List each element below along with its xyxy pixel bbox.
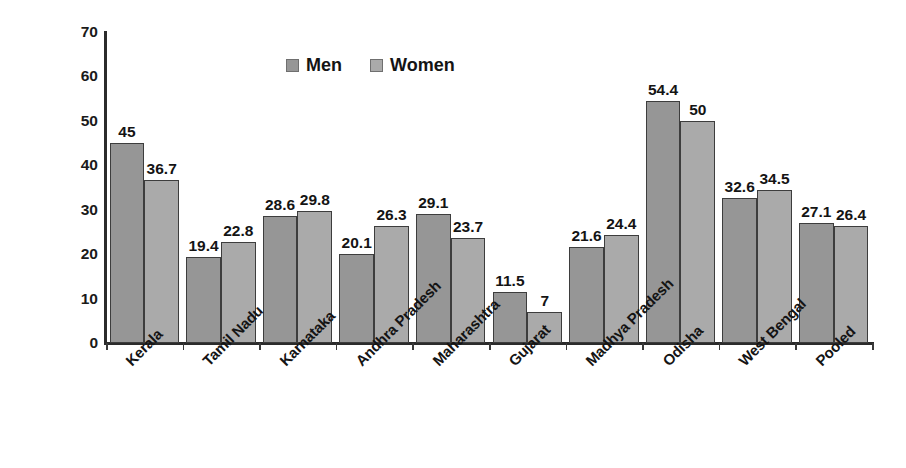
x-axis-tick bbox=[412, 343, 414, 350]
bar-value-label: 27.1 bbox=[801, 203, 831, 221]
bar-men bbox=[339, 254, 374, 343]
bar-group: 20.126.3 bbox=[339, 32, 409, 343]
bar-value-label: 7 bbox=[540, 292, 549, 310]
bar-group: 32.634.5 bbox=[722, 32, 792, 343]
y-axis-tick-label: 50 bbox=[54, 112, 98, 130]
legend-swatch-icon bbox=[370, 59, 383, 72]
bar-men bbox=[110, 143, 145, 343]
bar-group: 19.422.8 bbox=[186, 32, 256, 343]
x-axis-tick bbox=[719, 343, 721, 350]
y-axis-tick-label: 30 bbox=[54, 201, 98, 219]
x-axis-tick bbox=[106, 343, 108, 350]
bar-women bbox=[680, 121, 715, 343]
bar-value-label: 19.4 bbox=[188, 237, 218, 255]
bar-value-label: 26.4 bbox=[836, 206, 866, 224]
bar-value-label: 11.5 bbox=[495, 272, 524, 290]
bar-value-label: 45 bbox=[118, 123, 135, 141]
bar-men bbox=[263, 216, 298, 343]
bar-group: 27.126.4 bbox=[799, 32, 869, 343]
bar-men bbox=[493, 292, 528, 343]
bar-value-label: 32.6 bbox=[725, 178, 755, 196]
x-axis-tick bbox=[642, 343, 644, 350]
x-axis-tick bbox=[489, 343, 491, 350]
bar-value-label: 29.8 bbox=[300, 191, 330, 209]
bar-value-label: 28.6 bbox=[265, 196, 295, 214]
y-axis-tick-label: 0 bbox=[54, 334, 98, 352]
bar-group: 11.57 bbox=[493, 32, 563, 343]
bar-men bbox=[186, 257, 221, 343]
bar-chart: Prevalence (%) of hypertension 706050403… bbox=[0, 0, 906, 468]
legend-item-women: Women bbox=[370, 55, 455, 76]
bar-value-label: 34.5 bbox=[759, 170, 789, 188]
bar-value-label: 22.8 bbox=[223, 222, 253, 240]
bar-value-label: 23.7 bbox=[453, 218, 483, 236]
y-axis-tick-label: 40 bbox=[54, 156, 98, 174]
bar-value-label: 21.6 bbox=[571, 227, 601, 245]
bar-women bbox=[144, 180, 179, 343]
bar-value-label: 24.4 bbox=[606, 215, 636, 233]
bar-men bbox=[569, 247, 604, 343]
x-axis-tick bbox=[259, 343, 261, 350]
y-axis-tick-label: 10 bbox=[54, 290, 98, 308]
legend: MenWomen bbox=[286, 54, 455, 76]
x-axis-tick bbox=[336, 343, 338, 350]
y-axis-tick-labels: 706050403020100 bbox=[50, 32, 98, 343]
bar-men bbox=[799, 223, 834, 343]
bar-value-label: 36.7 bbox=[147, 160, 177, 178]
bar-group: 4536.7 bbox=[110, 32, 180, 343]
legend-label: Men bbox=[306, 55, 342, 76]
bar-men bbox=[722, 198, 757, 343]
bar-value-label: 54.4 bbox=[648, 81, 678, 99]
x-axis-tick bbox=[872, 343, 874, 350]
x-axis-tick bbox=[183, 343, 185, 350]
legend-label: Women bbox=[390, 55, 455, 76]
bar-value-label: 29.1 bbox=[418, 194, 448, 212]
x-axis-tick bbox=[566, 343, 568, 350]
bar-group: 28.629.8 bbox=[263, 32, 333, 343]
bar-women bbox=[834, 226, 869, 343]
bar-group: 21.624.4 bbox=[569, 32, 639, 343]
y-axis-tick-label: 70 bbox=[54, 23, 98, 41]
y-axis-tick-label: 60 bbox=[54, 67, 98, 85]
legend-swatch-icon bbox=[286, 59, 299, 72]
bar-value-label: 26.3 bbox=[376, 206, 406, 224]
legend-item-men: Men bbox=[286, 55, 342, 76]
y-axis-tick-label: 20 bbox=[54, 245, 98, 263]
bar-value-label: 20.1 bbox=[342, 234, 372, 252]
bar-value-label: 50 bbox=[689, 101, 706, 119]
x-axis-tick bbox=[795, 343, 797, 350]
